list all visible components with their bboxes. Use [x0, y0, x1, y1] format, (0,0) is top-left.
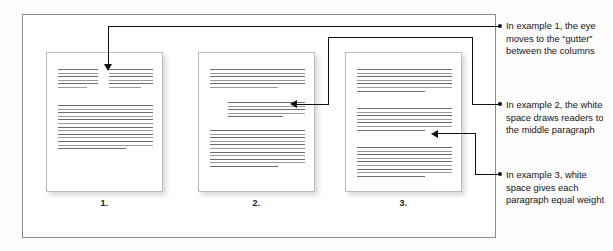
text-line	[210, 148, 305, 149]
text-line	[109, 80, 153, 81]
text-line	[357, 80, 452, 81]
text-line	[210, 166, 278, 167]
callout-2-arrowhead	[290, 100, 297, 108]
text-line	[357, 158, 452, 159]
text-line	[357, 169, 452, 170]
text-line	[210, 130, 305, 131]
text-line	[210, 141, 305, 142]
text-line	[58, 76, 98, 77]
callout-2-leader-seg1	[472, 104, 500, 105]
text-line	[210, 159, 305, 160]
page3-block-c	[357, 147, 452, 179]
callout-3-text: In example 3, white space gives each par…	[506, 169, 610, 207]
text-line	[58, 134, 153, 135]
text-line	[210, 76, 305, 77]
callout-1-leader-vertical	[108, 26, 109, 66]
callout-3-leader-seg2	[475, 133, 476, 174]
text-line	[58, 105, 153, 106]
text-line	[357, 119, 452, 120]
text-line	[357, 172, 452, 173]
text-line	[58, 119, 153, 120]
callout-3-leader-seg3	[438, 133, 475, 134]
text-line	[58, 141, 153, 142]
text-line	[357, 73, 452, 74]
text-line	[58, 145, 153, 146]
text-line	[357, 147, 452, 148]
callout-2-leader-seg2	[472, 37, 473, 104]
text-line	[109, 83, 153, 84]
text-line	[357, 130, 425, 131]
page2-top-block	[210, 69, 305, 91]
text-line	[109, 87, 141, 88]
text-line	[228, 109, 305, 110]
text-line	[357, 176, 425, 177]
text-line	[58, 73, 98, 74]
text-line	[109, 69, 153, 70]
callout-1-text: In example 1, the eye moves to the “gutt…	[506, 20, 610, 58]
text-line	[210, 134, 305, 135]
text-line	[357, 126, 452, 127]
callout-3-arrowhead	[431, 130, 438, 138]
text-line	[357, 154, 452, 155]
text-line	[357, 161, 452, 162]
text-line	[357, 115, 452, 116]
text-line	[58, 137, 153, 138]
text-line	[58, 80, 98, 81]
text-line	[228, 116, 283, 117]
text-line	[210, 162, 305, 163]
text-line	[58, 69, 98, 70]
page2-bottom-block	[210, 130, 305, 170]
text-line	[357, 151, 452, 152]
example-page-1	[46, 52, 163, 192]
page-label-2: 2.	[198, 198, 315, 208]
text-line	[210, 155, 305, 156]
callout-3-leader-seg1	[475, 174, 500, 175]
callout-2-text: In example 2, the white space draws read…	[506, 99, 610, 137]
text-line	[357, 87, 452, 88]
text-line	[210, 152, 305, 153]
text-line	[228, 113, 305, 114]
text-line	[58, 83, 98, 84]
text-line	[210, 80, 305, 81]
text-line	[357, 108, 452, 109]
page-label-3: 3.	[345, 198, 462, 208]
callout-2-leader-seg3	[328, 37, 473, 38]
text-line	[109, 76, 153, 77]
page3-block-a	[357, 69, 452, 94]
text-line	[58, 130, 153, 131]
page1-body-block	[58, 105, 153, 152]
text-line	[210, 83, 305, 84]
callout-1-arrowhead	[104, 64, 112, 71]
text-line	[357, 83, 452, 84]
text-line	[58, 148, 126, 149]
page1-column-left	[58, 69, 98, 91]
text-line	[58, 127, 153, 128]
text-line	[210, 73, 305, 74]
example-page-3	[345, 52, 462, 192]
figure-diagram: 1. 2. 3. In example 1, the eye moves to …	[0, 0, 613, 251]
text-line	[58, 112, 153, 113]
callout-2-leader-seg5	[297, 104, 329, 105]
text-line	[109, 73, 153, 74]
text-line	[357, 69, 452, 70]
text-line	[357, 112, 452, 113]
text-line	[58, 116, 153, 117]
text-line	[210, 87, 278, 88]
text-line	[357, 76, 452, 77]
text-line	[357, 165, 452, 166]
callout-1-leader-horizontal	[108, 26, 500, 27]
text-line	[210, 137, 305, 138]
text-line	[210, 69, 305, 70]
text-line	[210, 144, 305, 145]
page1-column-right	[109, 69, 153, 91]
text-line	[58, 87, 87, 88]
text-line	[357, 91, 425, 92]
text-line	[58, 123, 153, 124]
text-line	[357, 122, 452, 123]
callout-2-leader-seg4	[328, 37, 329, 104]
text-line	[58, 109, 153, 110]
example-page-2	[198, 52, 315, 192]
page-label-1: 1.	[46, 198, 163, 208]
